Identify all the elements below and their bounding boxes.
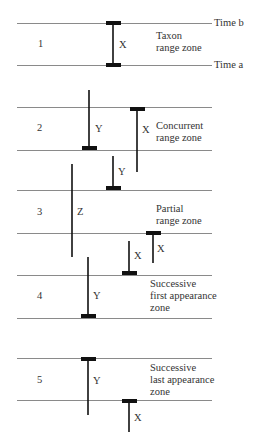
zone-1-name: Taxon range zone [156, 30, 202, 54]
zone-1-number: 1 [38, 38, 43, 50]
zone-1-name-line-1: Taxon [156, 30, 202, 42]
zone-3-number: 3 [37, 206, 42, 218]
taxon-label: Y [93, 375, 101, 387]
zone-3-name-line-1: Partial [156, 203, 202, 215]
zone-2-name-line-2: range zone [156, 132, 203, 144]
zone-3-name: Partial range zone [156, 203, 202, 227]
taxon-label: Z [77, 206, 83, 218]
taxon-label: X [134, 250, 142, 262]
taxon-label: Y [93, 290, 101, 302]
zone-4-name: Successive first appearance zone [150, 278, 217, 314]
zone-4-number: 4 [37, 290, 42, 302]
taxon-label: Y [118, 166, 126, 178]
taxon-label: X [119, 39, 127, 51]
taxon-label: X [157, 243, 165, 255]
zone-5-name-line-2: last appearance [150, 374, 214, 386]
zone-4-name-line-2: first appearance [150, 290, 217, 302]
range-endpoint-cap [122, 399, 137, 403]
zone-2-name-line-1: Concurrent [156, 120, 203, 132]
zone-1-name-line-2: range zone [156, 42, 202, 54]
range-endpoint-cap [122, 271, 137, 275]
time-a-label: Time a [214, 59, 243, 71]
zone-5-name: Successive last appearance zone [150, 362, 214, 398]
taxon-range-bars [72, 21, 161, 432]
zone-5-name-line-3: zone [150, 386, 214, 398]
zone-5-number: 5 [37, 374, 42, 386]
range-endpoint-cap [81, 314, 96, 318]
range-endpoint-cap [82, 146, 97, 150]
range-endpoint-cap [81, 357, 96, 361]
taxon-label: Y [95, 123, 103, 135]
range-endpoint-cap [106, 21, 121, 25]
range-endpoint-cap [146, 231, 161, 235]
range-endpoint-cap [130, 107, 145, 111]
range-endpoint-cap [106, 186, 121, 190]
zone-3-name-line-2: range zone [156, 215, 202, 227]
range-endpoint-cap [106, 63, 121, 67]
time-b-label: Time b [214, 17, 244, 29]
zone-2-name: Concurrent range zone [156, 120, 203, 144]
taxon-label: X [142, 124, 150, 136]
zone-4-name-line-1: Successive [150, 278, 217, 290]
taxon-label: X [134, 412, 142, 424]
zone-2-number: 2 [37, 122, 42, 134]
zone-5-name-line-1: Successive [150, 362, 214, 374]
zone-4-name-line-3: zone [150, 302, 217, 314]
